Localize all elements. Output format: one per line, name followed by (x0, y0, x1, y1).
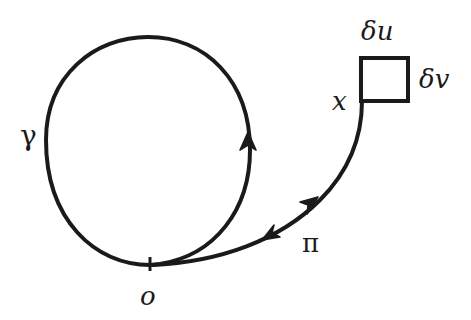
label-pi: π (302, 230, 319, 256)
label-delta-u: δu (361, 18, 393, 44)
label-gamma: γ (20, 122, 37, 150)
label-delta-v: δv (419, 66, 449, 92)
diagram-canvas (0, 0, 471, 320)
delta-box (361, 58, 408, 101)
loop-gamma-curve (46, 37, 250, 265)
label-base-point: o (140, 283, 156, 309)
label-end-point: x (332, 88, 347, 114)
path-pi-curve (152, 101, 362, 265)
